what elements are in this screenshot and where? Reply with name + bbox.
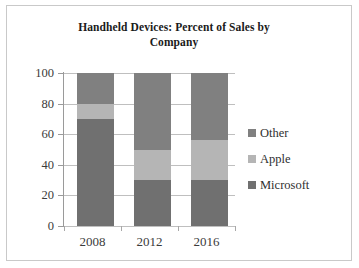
chart-image: Handheld Devices: Percent of Sales by Co… <box>0 0 359 268</box>
bar-segment-apple-2012 <box>134 150 171 181</box>
legend-swatch-apple-icon <box>248 155 256 163</box>
y-axis-tick-label: 40 <box>18 159 54 171</box>
legend-item-microsoft: Microsoft <box>248 172 348 198</box>
x-axis-tick <box>121 226 122 231</box>
x-axis-tick <box>235 226 236 231</box>
plot-area <box>64 73 235 226</box>
bar-segment-microsoft-2012 <box>134 180 171 226</box>
bar-segment-microsoft-2008 <box>77 119 114 226</box>
legend-label-other: Other <box>260 126 288 141</box>
y-axis-tick-label-wrap: 100 <box>14 67 54 79</box>
x-axis-label-2008: 2008 <box>63 234 123 250</box>
bar-segment-apple-2016 <box>191 140 228 180</box>
legend-label-apple: Apple <box>260 152 291 167</box>
y-axis-tick-label: 100 <box>18 67 54 79</box>
x-axis-label-2012: 2012 <box>120 234 180 250</box>
bar-segment-other-2016 <box>191 73 228 140</box>
bar-2016 <box>191 73 228 226</box>
y-axis-tick-label-wrap: 20 <box>14 189 54 201</box>
bar-2012 <box>134 73 171 226</box>
x-axis-tick <box>64 226 65 231</box>
chart-legend: OtherAppleMicrosoft <box>248 120 348 198</box>
bar-segment-apple-2008 <box>77 104 114 119</box>
y-axis-tick-label-wrap: 60 <box>14 128 54 140</box>
legend-swatch-other-icon <box>248 129 256 137</box>
chart-title-line-1: Handheld Devices: Percent of Sales by <box>26 20 322 35</box>
y-axis-tick-label: 0 <box>18 220 54 232</box>
x-axis-label-2016: 2016 <box>177 234 237 250</box>
chart-title: Handheld Devices: Percent of Sales by Co… <box>26 20 322 50</box>
bar-segment-other-2012 <box>134 73 171 150</box>
legend-item-apple: Apple <box>248 146 348 172</box>
y-axis-tick-label: 60 <box>18 128 54 140</box>
bar-2008 <box>77 73 114 226</box>
y-axis-tick-label-wrap: 80 <box>14 98 54 110</box>
bar-segment-other-2008 <box>77 73 114 104</box>
x-axis-tick <box>178 226 179 231</box>
y-axis-tick-label-wrap: 0 <box>14 220 54 232</box>
legend-swatch-microsoft-icon <box>248 181 256 189</box>
y-axis-tick-label-wrap: 40 <box>14 159 54 171</box>
y-axis-tick-label: 80 <box>18 98 54 110</box>
chart-title-line-2: Company <box>26 35 322 50</box>
bar-segment-microsoft-2016 <box>191 180 228 226</box>
gridline <box>64 226 235 227</box>
y-axis-tick-label: 20 <box>18 189 54 201</box>
legend-label-microsoft: Microsoft <box>260 178 309 193</box>
legend-item-other: Other <box>248 120 348 146</box>
